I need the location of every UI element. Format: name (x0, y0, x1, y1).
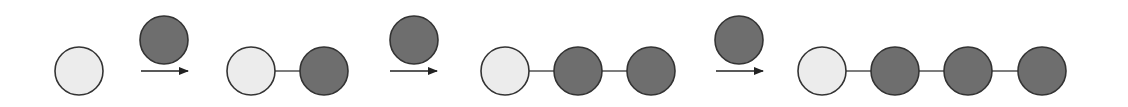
added-node (1018, 47, 1066, 95)
incoming-node (140, 16, 188, 64)
nodes-layer (55, 47, 1066, 95)
transition-3 (715, 16, 763, 71)
diagram-canvas (0, 0, 1128, 107)
chain-stage-1 (55, 47, 103, 95)
seed-node (798, 47, 846, 95)
seed-node (227, 47, 275, 95)
seed-node (481, 47, 529, 95)
added-node (944, 47, 992, 95)
incoming-node (390, 16, 438, 64)
added-node (627, 47, 675, 95)
added-node (300, 47, 348, 95)
added-node (554, 47, 602, 95)
incoming-node (715, 16, 763, 64)
chain-growth-diagram (0, 0, 1128, 107)
chain-stage-3 (481, 47, 675, 95)
seed-node (55, 47, 103, 95)
added-node (871, 47, 919, 95)
transition-2 (390, 16, 438, 71)
transition-1 (140, 16, 188, 71)
